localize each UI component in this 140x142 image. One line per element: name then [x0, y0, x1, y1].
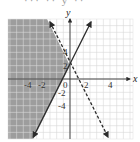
y-axis-label: y — [65, 7, 71, 18]
x-axis-label: x — [132, 73, 138, 84]
y-tick-label: -2 — [58, 88, 66, 98]
y-tick-label: -4 — [58, 101, 66, 111]
x-tick-label: 4 — [108, 80, 113, 90]
inequality-graph: x y -4 -2 0 2 4 4 2 -2 -4 — [0, 0, 140, 142]
x-tick-label: 2 — [84, 80, 89, 90]
x-tick-label: -2 — [38, 80, 46, 90]
x-tick-label: -4 — [24, 80, 32, 90]
